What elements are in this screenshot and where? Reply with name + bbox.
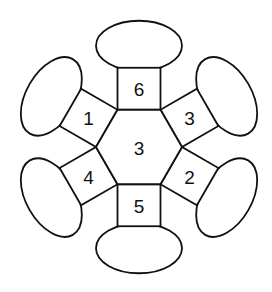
square-label-lower-left: 4: [83, 167, 94, 188]
square-label-bottom: 5: [134, 196, 145, 217]
hexagon-arms-diagram: 632541 3: [0, 0, 272, 292]
square-label-lower-right: 2: [184, 167, 195, 188]
ellipse-bottom: [96, 223, 182, 273]
square-label-top: 6: [134, 79, 145, 100]
center-hexagon-label: 3: [134, 138, 145, 159]
square-label-upper-right: 3: [184, 108, 195, 129]
ellipse-top: [96, 21, 182, 71]
square-label-upper-left: 1: [83, 108, 94, 129]
